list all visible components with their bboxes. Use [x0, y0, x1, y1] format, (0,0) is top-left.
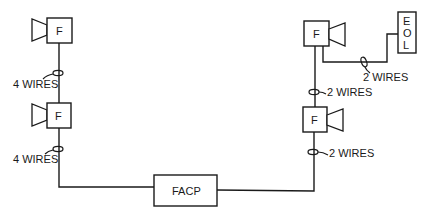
wire-count-marker-right-2: 2 WIRES	[308, 147, 374, 159]
fire-alarm-control-panel: FACP	[154, 175, 217, 206]
wire-count-marker-right-eol: 2 WIRES	[360, 56, 408, 83]
device-label: F	[56, 25, 63, 37]
right-circuit: F E O L 2 WIRES 2 WIRES	[217, 12, 416, 191]
left-wire-run	[59, 43, 154, 187]
wire-label: 2 WIRES	[363, 71, 408, 83]
eol-letter-o: O	[403, 27, 412, 39]
horn-icon	[329, 23, 345, 46]
notification-device-right-2: F	[303, 107, 343, 132]
device-label: F	[311, 114, 318, 126]
leader-line	[318, 152, 328, 155]
leader-line	[319, 92, 326, 94]
left-circuit: F 4 WIRES F 4 WIRES	[13, 18, 154, 187]
wire-label: 4 WIRES	[13, 153, 58, 165]
wire-count-marker-right-1: 2 WIRES	[309, 86, 372, 98]
right-wire-run	[217, 46, 315, 191]
eol-letter-e: E	[403, 15, 410, 27]
device-label: F	[313, 28, 320, 40]
horn-icon	[32, 19, 47, 41]
notification-device-right-1: F	[304, 21, 345, 46]
eol-letter-l: L	[403, 39, 409, 51]
wire-loop-icon	[53, 70, 63, 75]
wire-loop-icon	[53, 146, 63, 151]
facp-label: FACP	[172, 185, 201, 197]
horn-icon	[327, 109, 343, 131]
wire-loop-icon	[309, 89, 319, 94]
wire-label: 4 WIRES	[13, 78, 58, 90]
device-label: F	[55, 110, 62, 122]
notification-device-left-1: F	[32, 18, 72, 43]
wire-loop-icon	[308, 149, 318, 154]
horn-icon	[32, 104, 47, 126]
wiring-diagram: F 4 WIRES F 4 WIRES	[0, 0, 427, 217]
wire-count-marker-left-1: 4 WIRES	[13, 70, 63, 90]
wire-count-marker-left-2: 4 WIRES	[13, 146, 63, 165]
wire-label: 2 WIRES	[327, 86, 372, 98]
wire-label: 2 WIRES	[329, 147, 374, 159]
notification-device-left-2: F	[32, 103, 71, 128]
end-of-line-device: E O L	[398, 12, 416, 53]
